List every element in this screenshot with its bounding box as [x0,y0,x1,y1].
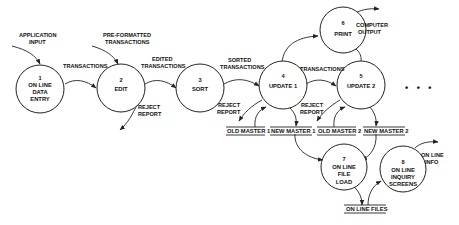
flow-reject-4 [239,100,262,121]
label-sorted-1: SORTED [228,57,251,63]
label-application-input-1: APPLICATION [19,32,57,38]
label-application-input-2: INPUT [29,39,46,45]
process-7-number: 7 [342,156,345,162]
process-3[interactable]: 3 SORT [176,64,224,112]
store-old-master-2-label: OLD MASTER 2 [318,128,361,134]
process-2-label: EDIT [114,86,128,92]
process-7[interactable]: 7 ON LINE FILE LOAD [321,144,367,190]
process-3-label: SORT [192,86,209,92]
label-online-info-1: ON LINE [421,152,444,158]
store-on-line-files-label: ON LINE FILES [346,206,388,212]
process-2-number: 2 [119,77,122,83]
label-computer-output-1: COMPUTER [356,22,388,28]
label-online-info-2: INFO [425,159,439,165]
label-reject-5-1: REJECT [301,102,324,108]
flow-transactions-1-2 [65,81,96,88]
flow-old-master-1-to-4 [255,107,266,127]
label-edited-1: EDITED [152,56,173,62]
label-transactions-4-5: TRANSACTIONS [300,66,345,72]
store-on-line-files[interactable]: ON LINE FILES [344,205,388,213]
process-7-line-3: LOAD [336,179,352,185]
process-8-line-2: INQUIRY [391,174,415,180]
label-pre-formatted-2: TRANSACTIONS [105,39,150,45]
flow-pre-formatted [92,46,118,64]
flow-online-files-to-8 [368,181,381,205]
label-reject-2-1: REJECT [138,104,161,110]
process-8-line-3: SCREENS [389,181,417,187]
flow-new-master-1-to-7 [295,134,323,160]
store-new-master-1-label: NEW MASTER 1 [271,128,316,134]
process-8-line-1: ON LINE [391,167,415,173]
label-reject-5-2: REPORT [300,109,324,115]
process-5-label: UPDATE 2 [347,83,375,89]
process-7-line-1: ON LINE [332,164,356,170]
label-edited-2: TRANSACTIONS [141,63,186,69]
flow-old-master-2-to-5 [334,107,345,127]
flow-edited [145,81,176,88]
process-6-number: 6 [341,20,344,26]
store-old-master-1-label: OLD MASTER 1 [227,128,271,134]
continuation-ellipsis: • • • [405,83,434,93]
process-7-line-2: FILE [338,171,351,177]
store-new-master-2-label: NEW MASTER 2 [364,128,408,134]
process-8-number: 8 [401,159,404,165]
flow-4-to-new-master-1 [290,108,296,126]
flow-sorted [224,80,259,86]
flow-5-to-new-master-2 [370,107,376,126]
store-old-master-1[interactable]: OLD MASTER 1 [226,127,271,135]
process-6-label: PRINT [334,31,352,37]
label-computer-output-2: OUTPUT [358,29,382,35]
label-reject-2-2: REPORT [138,111,162,117]
store-new-master-1[interactable]: NEW MASTER 1 [270,127,316,135]
flow-transactions-4-5 [306,80,336,86]
flow-application-input [12,46,40,64]
process-1-number: 1 [38,75,41,81]
store-old-master-2[interactable]: OLD MASTER 2 [317,127,361,135]
label-reject-4-2: REPORT [217,109,241,115]
label-reject-4-1: REJECT [218,102,241,108]
process-1-line-2: DATA [32,89,48,95]
label-sorted-2: TRANSACTIONS [220,64,265,70]
label-pre-formatted-1: PRE-FORMATTED [103,32,151,38]
process-3-number: 3 [198,77,201,83]
process-4-label: UPDATE 1 [269,83,298,89]
process-1-line-3: ENTRY [30,96,50,102]
process-1[interactable]: 1 ON LINE DATA ENTRY [16,65,64,113]
process-8[interactable]: 8 ON LINE INQUIRY SCREENS [380,146,426,192]
data-flow-diagram: 1 ON LINE DATA ENTRY 2 EDIT 3 SORT 4 UPD… [0,0,459,225]
flow-4-to-6 [282,36,318,62]
process-1-line-1: ON LINE [28,82,52,88]
label-transactions-1-2: TRANSACTIONS [63,63,108,69]
store-new-master-2[interactable]: NEW MASTER 2 [363,127,408,135]
flow-online-info [415,142,438,148]
process-5-number: 5 [359,73,362,79]
